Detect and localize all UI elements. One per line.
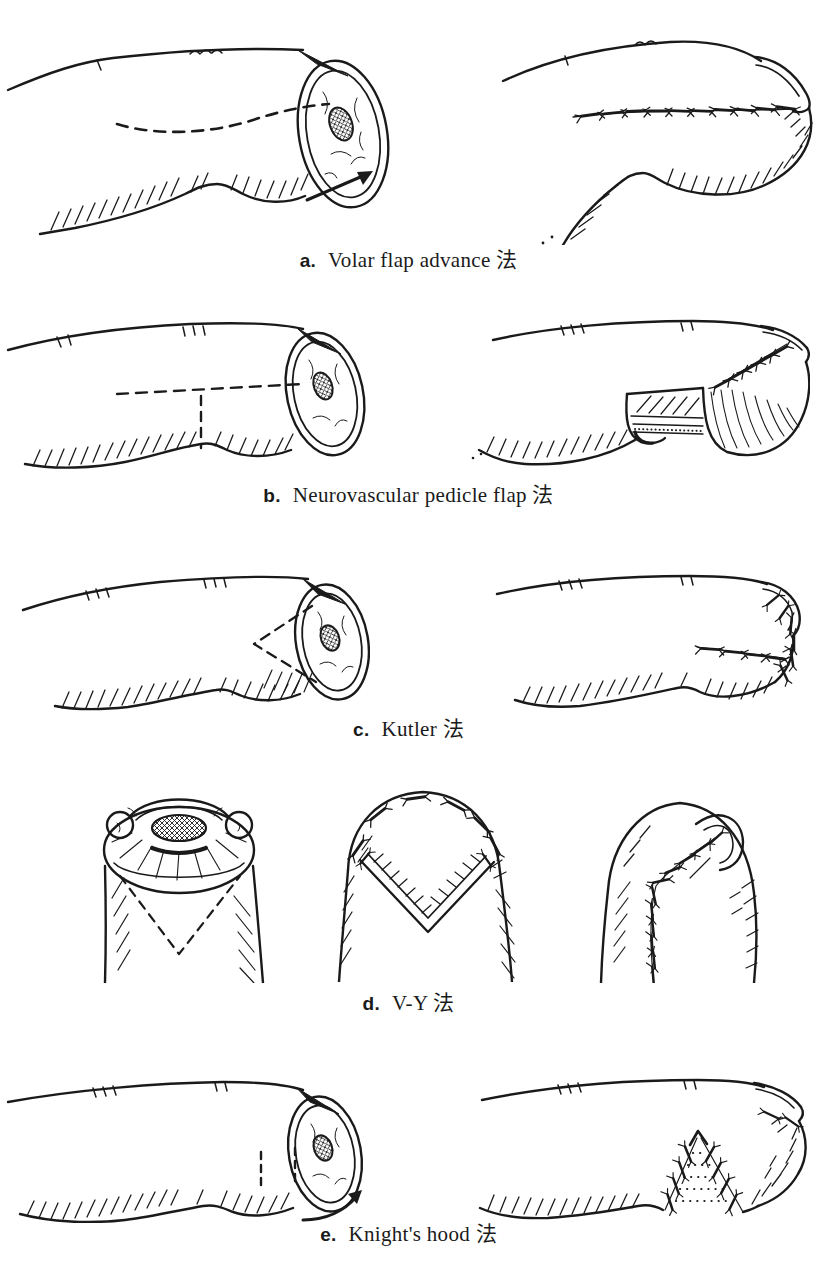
figure-page: a.Volar flap advance 法 <box>0 0 817 1263</box>
caption-e: e.Knight's hood 法 <box>0 1217 817 1247</box>
caption-d-text: V-Y 法 <box>392 991 454 1015</box>
panel-e-postop-drawing <box>460 1058 815 1223</box>
panel-d-preop-drawing <box>72 778 287 983</box>
caption-a-text: Volar flap advance 法 <box>328 248 517 272</box>
panel-c-preop-drawing <box>20 552 370 712</box>
caption-a-label: a. <box>300 250 316 271</box>
caption-d: d.V-Y 法 <box>0 986 817 1016</box>
panel-a-preop-drawing <box>5 12 395 237</box>
caption-d-label: d. <box>363 993 381 1014</box>
caption-e-text: Knight's hood 法 <box>349 1222 497 1246</box>
caption-a: a.Volar flap advance 法 <box>0 243 817 273</box>
caption-c-label: c. <box>353 719 369 740</box>
panel-d-midop-drawing <box>318 772 528 982</box>
panel-d-postop-drawing <box>570 778 785 983</box>
panel-e-preop-drawing <box>5 1058 375 1223</box>
caption-e-label: e. <box>320 1224 336 1245</box>
panel-c-postop-drawing <box>485 552 805 712</box>
caption-b-label: b. <box>263 485 281 506</box>
caption-c: c.Kutler 法 <box>0 712 817 742</box>
caption-b: b.Neurovascular pedicle flap 法 <box>0 478 817 508</box>
panel-a-postop-drawing <box>425 15 815 245</box>
panel-b-postop-drawing <box>465 300 810 470</box>
caption-c-text: Kutler 法 <box>382 717 464 741</box>
caption-b-text: Neurovascular pedicle flap 法 <box>293 483 554 507</box>
panel-b-preop-drawing <box>5 298 370 473</box>
